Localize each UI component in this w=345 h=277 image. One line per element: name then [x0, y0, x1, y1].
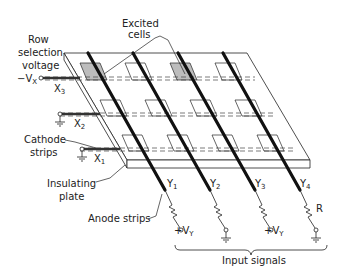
label-row: Row: [28, 34, 49, 45]
display-panel-diagram: Row selection voltage −VX X3 X2 X1 Excit…: [0, 0, 345, 277]
label-strips: strips: [30, 147, 58, 158]
label-input-signals: Input signals: [222, 255, 286, 266]
label-voltage: voltage: [22, 60, 59, 71]
label-cathode: Cathode: [24, 134, 66, 145]
label-selection: selection: [18, 47, 63, 58]
label-y1: Y1: [166, 178, 178, 191]
label-cells: cells: [128, 29, 150, 40]
label-neg-vx: −VX: [17, 73, 37, 86]
label-r: R: [316, 203, 323, 214]
label-plate: plate: [59, 191, 84, 202]
label-excited: Excited: [122, 18, 159, 29]
label-anode-strips: Anode strips: [88, 213, 151, 224]
label-x3: X3: [54, 83, 65, 96]
label-x2: X2: [74, 118, 85, 131]
label-vy3: +VY: [264, 225, 284, 238]
label-insulating: Insulating: [47, 178, 96, 189]
input-resistors: [165, 190, 327, 255]
label-x1: X1: [94, 153, 105, 166]
label-vy1: +VY: [174, 225, 194, 238]
